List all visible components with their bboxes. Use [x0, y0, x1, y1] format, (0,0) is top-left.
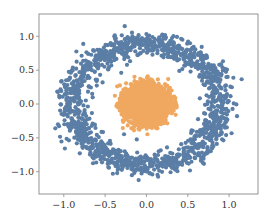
y-tick-label: 1.0 — [19, 31, 34, 42]
y-tick-label: 0.0 — [19, 98, 34, 109]
y-axis: 1.00.50.0−0.5−1.0 — [11, 31, 39, 177]
y-tick-label: −1.0 — [11, 166, 34, 177]
scatter-chart: −1.0−0.50.00.51.0 1.00.50.0−0.5−1.0 — [0, 0, 273, 223]
x-tick-label: 0.0 — [139, 199, 154, 210]
y-tick-label: 0.5 — [19, 64, 34, 75]
x-tick-label: −0.5 — [94, 199, 117, 210]
x-tick-label: −1.0 — [52, 199, 75, 210]
x-tick-label: 1.0 — [222, 199, 237, 210]
x-axis: −1.0−0.50.00.51.0 — [52, 194, 236, 210]
x-tick-label: 0.5 — [180, 199, 195, 210]
y-tick-label: −0.5 — [11, 132, 34, 143]
inner-disk-series — [113, 74, 179, 136]
data-points — [53, 24, 244, 182]
